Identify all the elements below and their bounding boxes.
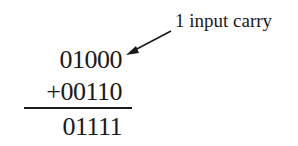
sum-rule-divider: [24, 107, 132, 109]
sum-result: 01111: [22, 114, 122, 140]
operand-2: +00110: [22, 79, 122, 105]
operand-1: 01000: [22, 47, 122, 73]
